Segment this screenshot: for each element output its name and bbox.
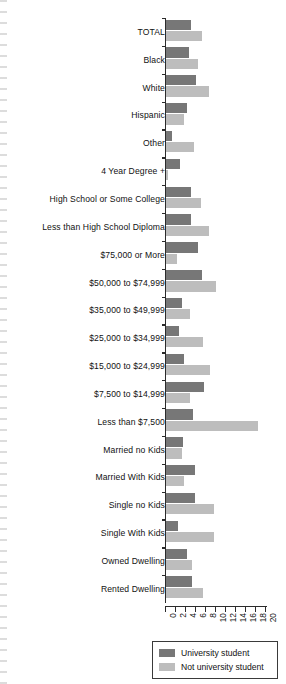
y-axis-tick	[162, 436, 166, 437]
category-bars	[166, 131, 286, 155]
x-axis-tick-label: 2	[179, 613, 188, 618]
bar-university-student	[166, 382, 204, 392]
x-axis-tick	[205, 607, 206, 612]
category-bars	[166, 493, 286, 517]
category-bars	[166, 186, 286, 210]
bar-not-university-student	[166, 337, 203, 347]
x-axis-tick-label: 6	[199, 613, 208, 618]
category-label: Hispanic	[131, 110, 165, 120]
chart-category-row: $75,000 or More	[0, 241, 286, 269]
bar-university-student	[166, 131, 172, 141]
bar-not-university-student	[166, 588, 203, 598]
bar-university-student	[166, 326, 179, 336]
y-axis-tick	[162, 547, 166, 548]
chart-category-row: Married With Kids	[0, 464, 286, 492]
category-label: Married With Kids	[95, 472, 165, 482]
x-axis-tick-label: 14	[239, 613, 248, 622]
plot-area: TOTALBlackWhiteHispanicOther4 Year Degre…	[0, 18, 286, 603]
category-bars	[166, 520, 286, 544]
chart-category-row: White	[0, 74, 286, 102]
category-bars	[166, 548, 286, 572]
chart-category-row: Other	[0, 129, 286, 157]
category-label: Black	[143, 55, 165, 65]
bar-university-student	[166, 242, 198, 252]
y-axis-tick	[162, 519, 166, 520]
x-axis-tick	[185, 607, 186, 612]
bar-university-student	[166, 20, 191, 30]
chart-category-row: Rented Dwelling	[0, 575, 286, 603]
bar-university-student	[166, 103, 187, 113]
chart-category-row: $50,000 to $74,999	[0, 269, 286, 297]
category-label: White	[143, 83, 165, 93]
y-axis-line	[165, 18, 166, 603]
category-label: TOTAL	[138, 27, 165, 37]
category-label: $15,000 to $24,999	[89, 361, 165, 371]
chart-category-row: $35,000 to $49,999	[0, 296, 286, 324]
legend-label: University student	[181, 648, 249, 658]
chart-category-row: Less than $7,500	[0, 408, 286, 436]
y-axis-tick	[162, 102, 166, 103]
x-axis-tick-label: 18	[259, 613, 268, 622]
x-axis-tick	[265, 607, 266, 612]
bar-not-university-student	[166, 532, 214, 542]
x-axis-tick-label: 10	[219, 613, 228, 622]
y-axis-tick	[162, 18, 166, 19]
y-axis-tick	[162, 213, 166, 214]
bar-not-university-student	[166, 448, 182, 458]
x-axis-tick-label: 12	[229, 613, 238, 622]
x-axis-tick-label: 8	[209, 613, 218, 618]
category-bars	[166, 298, 286, 322]
chart-category-row: Hispanic	[0, 102, 286, 130]
y-axis-tick	[162, 492, 166, 493]
bar-university-student	[166, 187, 191, 197]
y-axis-tick	[162, 46, 166, 47]
bar-university-student	[166, 521, 178, 531]
x-axis-tick	[195, 607, 196, 612]
x-axis-tick	[165, 607, 166, 612]
bar-not-university-student	[166, 142, 194, 152]
bar-not-university-student	[166, 226, 209, 236]
chart-legend: University studentNot university student	[152, 641, 278, 679]
y-axis-tick	[162, 74, 166, 75]
bar-not-university-student	[166, 59, 198, 69]
category-label: Married no Kids	[103, 445, 165, 455]
category-label: Owned Dwelling	[102, 556, 166, 566]
bar-university-student	[166, 409, 193, 419]
bar-university-student	[166, 75, 196, 85]
y-axis-tick	[162, 269, 166, 270]
legend-swatch-not-university-student	[159, 663, 175, 672]
category-bars	[166, 270, 286, 294]
chart-category-row: Single no Kids	[0, 491, 286, 519]
chart-category-row: $25,000 to $34,999	[0, 324, 286, 352]
chart-category-row: $7,500 to $14,999	[0, 380, 286, 408]
category-bars	[166, 158, 286, 182]
x-axis-tick	[175, 607, 176, 612]
y-axis-tick	[162, 129, 166, 130]
chart-category-row: Single With Kids	[0, 519, 286, 547]
bar-university-student	[166, 47, 189, 57]
category-label: Less than High School Diploma	[42, 222, 165, 232]
bar-not-university-student	[166, 504, 214, 514]
bar-not-university-student	[166, 114, 184, 124]
chart-category-row: Owned Dwelling	[0, 547, 286, 575]
bar-not-university-student	[166, 393, 190, 403]
y-axis-tick	[162, 464, 166, 465]
chart-category-row: Married no Kids	[0, 436, 286, 464]
bar-university-student	[166, 549, 187, 559]
chart-category-row: 4 Year Degree +	[0, 157, 286, 185]
bar-university-student	[166, 354, 184, 364]
bar-not-university-student	[166, 309, 190, 319]
chart-category-row: TOTAL	[0, 18, 286, 46]
x-axis-tick	[225, 607, 226, 612]
y-axis-tick	[162, 352, 166, 353]
bar-university-student	[166, 270, 202, 280]
category-bars	[166, 381, 286, 405]
y-axis-tick	[162, 185, 166, 186]
y-axis-tick	[162, 324, 166, 325]
bar-university-student	[166, 465, 195, 475]
category-bars	[166, 47, 286, 71]
bar-not-university-student	[166, 421, 258, 431]
bar-not-university-student	[166, 198, 201, 208]
category-label: Rented Dwelling	[101, 584, 165, 594]
y-axis-tick	[162, 408, 166, 409]
